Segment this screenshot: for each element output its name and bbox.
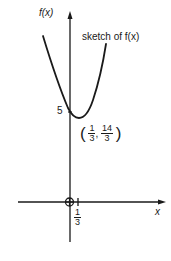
parabola-curve xyxy=(43,36,106,118)
x-tick-label: 1 3 xyxy=(74,208,81,227)
x-axis-label: x xyxy=(155,207,160,217)
y-axis-label-text: f(x) xyxy=(39,7,53,18)
vertex-y-fraction: 14 3 xyxy=(101,124,113,143)
close-paren: ) xyxy=(116,124,122,143)
y-intercept-text: 5 xyxy=(57,105,63,116)
vertex-label: ( 1 3 , 14 3 ) xyxy=(80,124,122,143)
x-axis-label-text: x xyxy=(155,206,160,217)
y-axis-arrow-icon xyxy=(68,11,73,19)
open-paren: ( xyxy=(80,124,86,143)
x-tick-fraction: 1 3 xyxy=(74,208,81,227)
curve-label: sketch of f(x) xyxy=(82,32,139,42)
y-intercept-label: 5 xyxy=(57,106,63,116)
curve-label-text: sketch of f(x) xyxy=(82,31,139,42)
vertex-separator: , xyxy=(95,128,98,139)
x-tick-denominator: 3 xyxy=(75,218,80,227)
vertex-x-denominator: 3 xyxy=(89,134,94,143)
origin-marker-icon xyxy=(66,198,74,206)
x-axis-arrow-icon xyxy=(158,200,166,205)
vertex-y-denominator: 3 xyxy=(105,134,110,143)
y-axis-label: f(x) xyxy=(39,8,53,18)
